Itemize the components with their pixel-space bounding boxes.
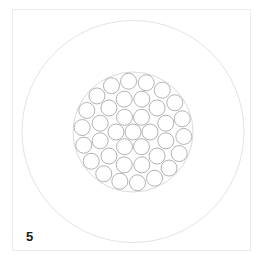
strand-circle <box>174 111 190 127</box>
strand-circle <box>117 109 133 125</box>
strand-circle <box>161 160 177 176</box>
strand-group <box>74 73 192 191</box>
strand-circle <box>121 73 137 89</box>
figure-number-label: 5 <box>26 230 33 243</box>
cable-cross-section <box>0 0 269 265</box>
strand-circle <box>74 120 90 136</box>
strand-circle <box>134 139 150 155</box>
strand-circle <box>108 124 124 140</box>
strand-circle <box>103 78 119 94</box>
strand-circle <box>134 91 150 107</box>
strand-circle <box>89 88 105 104</box>
strand-circle <box>134 157 150 173</box>
strand-circle <box>158 133 174 149</box>
strand-circle <box>125 124 141 140</box>
strand-circle <box>83 153 99 169</box>
strand-circle <box>101 148 117 164</box>
strand-circle <box>158 115 174 131</box>
strand-circle <box>112 173 128 189</box>
strand-circle <box>129 175 145 191</box>
strand-circle <box>96 166 112 182</box>
strand-circle <box>92 115 108 131</box>
strand-circle <box>101 100 117 116</box>
strand-circle <box>79 102 95 118</box>
strand-circle <box>149 100 165 116</box>
strand-circle <box>138 75 154 91</box>
strand-circle <box>76 137 92 153</box>
strand-circle <box>92 133 108 149</box>
strand-circle <box>176 128 192 144</box>
strand-circle <box>116 91 132 107</box>
strand-circle <box>171 146 187 162</box>
strand-circle <box>116 157 132 173</box>
strand-circle <box>142 124 158 140</box>
strand-circle <box>167 95 183 111</box>
strand-circle <box>147 170 163 186</box>
strand-circle <box>134 109 150 125</box>
strand-circle <box>117 139 133 155</box>
strand-circle <box>149 148 165 164</box>
strand-circle <box>154 82 170 98</box>
